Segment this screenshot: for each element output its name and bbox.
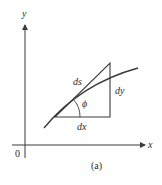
dx-label: dx	[77, 121, 87, 132]
figure-caption: (a)	[91, 160, 102, 172]
dy-label: dy	[115, 85, 125, 96]
phi-label: ϕ	[82, 98, 87, 109]
ds-label: ds	[73, 76, 82, 87]
y-axis-label: y	[21, 8, 27, 19]
x-axis-label: x	[147, 139, 153, 150]
curve	[44, 68, 138, 128]
angle-arc	[73, 99, 80, 117]
origin-label: 0	[15, 148, 20, 159]
diagram-canvas: y x 0 ds dy ϕ dx (a)	[0, 0, 162, 185]
